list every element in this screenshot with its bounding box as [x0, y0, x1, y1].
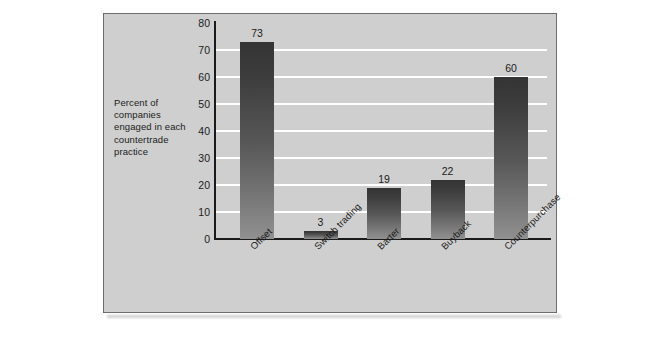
- y-axis-tick-labels: 01020304050607080: [186, 23, 210, 239]
- y-axis-tick-label: 10: [188, 206, 210, 218]
- bar-value-label: 60: [486, 62, 536, 74]
- bar-value-label: 19: [359, 173, 409, 185]
- chart-page: Percent of companies engaged in each cou…: [0, 0, 658, 345]
- right-band-notch: [558, 0, 646, 29]
- bar-value-label: 22: [423, 165, 473, 177]
- y-axis-tick-label: 50: [188, 98, 210, 110]
- chart-panel: Percent of companies engaged in each cou…: [103, 13, 557, 313]
- left-band-notch: [12, 0, 112, 31]
- x-axis-tick-labels: OffsetSwitch tradingBarterBuybackCounter…: [216, 244, 556, 314]
- bar-value-label: 73: [232, 27, 282, 39]
- y-axis-tick-label: 30: [188, 152, 210, 164]
- bar[interactable]: [240, 42, 274, 239]
- bar[interactable]: [494, 77, 528, 239]
- y-axis-tick-label: 60: [188, 71, 210, 83]
- panel-drop-shadow: [107, 315, 561, 318]
- y-axis-tick-label: 40: [188, 125, 210, 137]
- y-axis-tick-label: 0: [188, 233, 210, 245]
- y-axis-tick-label: 70: [188, 44, 210, 56]
- y-axis-tick-label: 20: [188, 179, 210, 191]
- y-axis-tick-label: 80: [188, 17, 210, 29]
- plot-area: 733192260: [216, 23, 547, 239]
